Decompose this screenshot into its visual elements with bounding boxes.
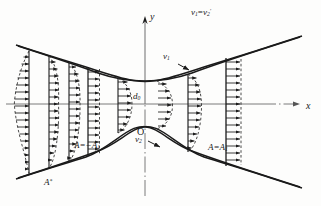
- v2-subscript: 2: [139, 138, 142, 144]
- v2-leader: [148, 141, 160, 147]
- top-relation-label: v1=v2': [191, 8, 211, 18]
- station-right-1: [188, 74, 202, 152]
- area-right-text: A=A: [208, 142, 225, 152]
- top-relation-prime: ': [210, 8, 211, 14]
- area-star-label: A*: [44, 178, 52, 187]
- station-left-1: [118, 78, 132, 133]
- area-left-text: A=−A: [74, 140, 97, 150]
- area-left-label: A=−A1: [74, 141, 100, 151]
- velocity-lower-label: v2: [135, 135, 142, 145]
- d0-subscript: 0: [138, 95, 141, 101]
- profile-envelope-left-1: [118, 78, 132, 133]
- diagram-svg: [0, 0, 321, 206]
- area-star-superscript: *: [50, 178, 53, 184]
- station-far-left: [14, 51, 29, 175]
- v1-subscript: 1: [167, 55, 170, 61]
- profile-envelope-left-4: [49, 56, 59, 168]
- axis-label-x: x: [306, 101, 310, 111]
- axis-label-y: y: [150, 12, 154, 22]
- velocity-upper-label: v1: [163, 52, 170, 62]
- station-right-2: [226, 58, 241, 166]
- axis-group: [6, 16, 300, 196]
- area-right-label: A=A1: [208, 143, 228, 153]
- area-right-subscript: 1: [225, 146, 228, 152]
- lower-wall: [18, 127, 300, 187]
- throat-diameter-label: d0: [133, 92, 140, 102]
- figure-canvas: y x O v1=v2' v1 v2 d0 A=−A1 A=A1 A*: [0, 0, 321, 206]
- station-left-4: [49, 56, 59, 168]
- area-left-subscript: 1: [97, 144, 100, 150]
- station-throat: [157, 81, 173, 129]
- v1-leader: [178, 64, 189, 70]
